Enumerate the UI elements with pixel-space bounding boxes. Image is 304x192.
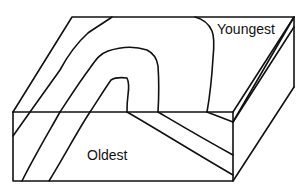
front-contact-3 bbox=[49, 112, 90, 181]
right-layer-line bbox=[233, 27, 294, 122]
top-face-layers bbox=[30, 17, 214, 112]
layer-contact-3 bbox=[90, 78, 129, 112]
front-contact-2 bbox=[22, 112, 60, 181]
front-contact-4 bbox=[127, 112, 233, 175]
label-oldest: Oldest bbox=[87, 148, 127, 162]
block-outline bbox=[13, 17, 294, 181]
layer-contact-2 bbox=[60, 47, 159, 112]
front-contact-6 bbox=[207, 112, 233, 122]
right-bottom-edge bbox=[233, 87, 294, 181]
layer-contact-4 bbox=[195, 17, 214, 112]
front-contact-1 bbox=[13, 112, 30, 136]
label-youngest: Youngest bbox=[217, 22, 275, 36]
